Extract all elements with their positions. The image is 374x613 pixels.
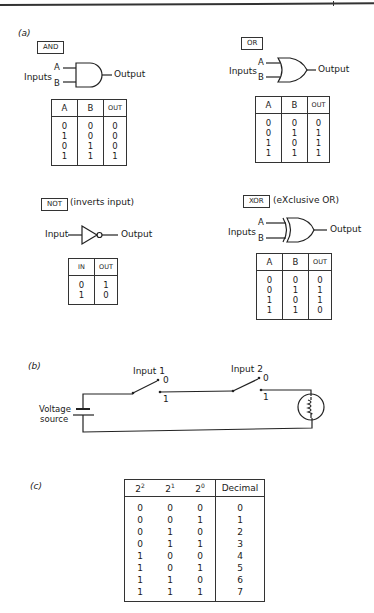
- table-row: 1 1 0 6: [125, 574, 265, 586]
- header-2-zero: 20: [185, 480, 216, 497]
- cell: 0: [125, 526, 156, 538]
- cell: 1: [125, 562, 156, 574]
- table-row: 0 1 1 3: [125, 538, 265, 550]
- cell: 5: [216, 562, 265, 574]
- cell: 0: [216, 497, 265, 515]
- cell: 1: [185, 514, 216, 526]
- panel-c-label: (c): [30, 481, 42, 491]
- cell: 0: [125, 538, 156, 550]
- cell: 1: [155, 526, 185, 538]
- table-row: 0 0 1 1: [125, 514, 265, 526]
- cell: 1: [125, 574, 156, 586]
- cell: 0: [185, 526, 216, 538]
- cell: 0: [185, 497, 216, 515]
- table-row: 0 0 0 0: [125, 497, 265, 515]
- cell: 0: [185, 574, 216, 586]
- cell: 0: [155, 562, 185, 574]
- cell: 0: [155, 550, 185, 562]
- cell: 0: [185, 550, 216, 562]
- cell: 4: [216, 550, 265, 562]
- cell: 6: [216, 574, 265, 586]
- binary-decimal-table: 22 21 20 Decimal 0 0 0 0 0 0 1 1 0 1 0 2…: [124, 479, 265, 602]
- header-decimal: Decimal: [216, 480, 265, 497]
- cell: 1: [125, 586, 156, 602]
- cell: 1: [155, 574, 185, 586]
- table-row: 1 0 0 4: [125, 550, 265, 562]
- header-2-squared: 22: [125, 480, 156, 497]
- cell: 7: [216, 586, 265, 602]
- cell: 1: [155, 538, 185, 550]
- table-row: 0 1 0 2: [125, 526, 265, 538]
- header-2-first: 21: [155, 480, 185, 497]
- cell: 1: [185, 586, 216, 602]
- table-row: 1 0 1 5: [125, 562, 265, 574]
- cell: 0: [125, 514, 156, 526]
- cell: 0: [125, 497, 156, 515]
- cell: 1: [125, 550, 156, 562]
- cell: 1: [155, 586, 185, 602]
- cell: 1: [185, 562, 216, 574]
- table-row: 1 1 1 7: [125, 586, 265, 602]
- cell: 0: [155, 514, 185, 526]
- cell: 1: [185, 538, 216, 550]
- cell: 0: [155, 497, 185, 515]
- cell: 1: [216, 514, 265, 526]
- cell: 3: [216, 538, 265, 550]
- cell: 2: [216, 526, 265, 538]
